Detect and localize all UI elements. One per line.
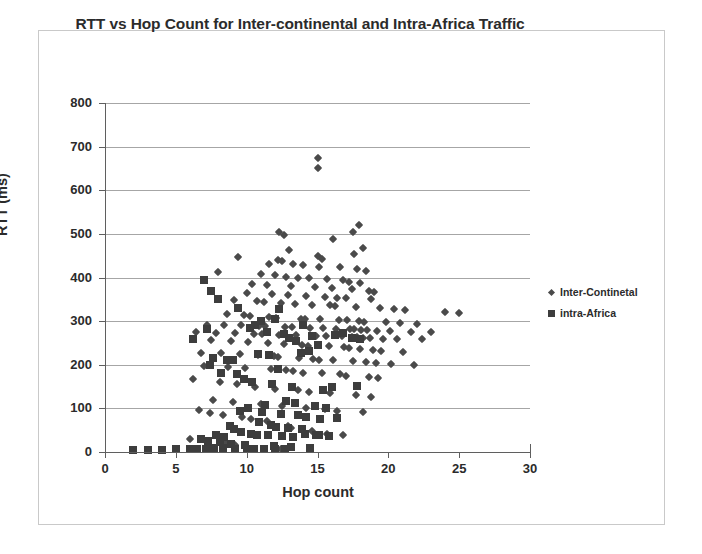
plot-right-edge	[530, 444, 531, 453]
data-point-inter-continental	[343, 316, 351, 324]
data-point-intra-africa	[255, 418, 263, 426]
y-tick-label: 100	[46, 400, 92, 415]
data-point-inter-continental	[194, 406, 202, 414]
data-point-intra-africa	[322, 404, 330, 412]
data-point-inter-continental	[247, 415, 255, 423]
data-point-inter-continental	[216, 378, 224, 386]
data-point-inter-continental	[286, 282, 294, 290]
data-point-intra-africa	[244, 404, 252, 412]
data-point-intra-africa	[333, 414, 341, 422]
y-tick-mark	[99, 147, 105, 148]
data-point-intra-africa	[315, 431, 323, 439]
data-point-inter-continental	[354, 221, 362, 229]
data-point-intra-africa	[331, 331, 339, 339]
x-axis-label: Hop count	[105, 484, 531, 500]
data-point-inter-continental	[302, 292, 310, 300]
gridline-y	[105, 103, 530, 104]
data-point-inter-continental	[381, 318, 389, 326]
data-point-inter-continental	[268, 290, 276, 298]
data-point-intra-africa	[236, 407, 244, 415]
data-point-inter-continental	[410, 361, 418, 369]
data-point-intra-africa	[206, 361, 214, 369]
data-point-intra-africa	[207, 287, 215, 295]
data-point-intra-africa	[212, 431, 220, 439]
data-point-inter-continental	[293, 273, 301, 281]
y-tick-label: 700	[46, 139, 92, 154]
y-axis-line	[105, 103, 106, 453]
x-tick-label: 20	[368, 461, 408, 476]
data-point-intra-africa	[277, 410, 285, 418]
diamond-marker-icon	[545, 290, 557, 295]
data-point-intra-africa	[217, 369, 225, 377]
data-point-intra-africa	[254, 350, 262, 358]
legend-label: intra-Africa	[560, 307, 616, 319]
data-point-inter-continental	[242, 289, 250, 297]
legend-item-intra-africa[interactable]: intra-Africa	[545, 304, 665, 322]
data-point-inter-continental	[223, 310, 231, 318]
data-point-inter-continental	[322, 332, 330, 340]
data-point-intra-africa	[275, 305, 283, 313]
data-point-inter-continental	[373, 326, 381, 334]
data-point-intra-africa	[282, 397, 290, 405]
square-marker-icon	[545, 310, 557, 317]
data-point-inter-continental	[248, 280, 256, 288]
y-tick-label: 200	[46, 357, 92, 372]
data-point-intra-africa	[289, 433, 297, 441]
data-point-inter-continental	[197, 348, 205, 356]
data-point-intra-africa	[353, 382, 361, 390]
data-point-inter-continental	[386, 327, 394, 335]
data-point-inter-continental	[231, 329, 239, 337]
data-point-inter-continental	[333, 293, 341, 301]
data-point-inter-continental	[315, 262, 323, 270]
data-point-inter-continental	[305, 274, 313, 282]
data-point-intra-africa	[253, 431, 261, 439]
data-point-intra-africa	[265, 351, 273, 359]
x-tick-mark	[388, 452, 389, 458]
data-point-intra-africa	[237, 428, 245, 436]
data-point-inter-continental	[316, 315, 324, 323]
data-point-inter-continental	[360, 317, 368, 325]
x-tick-label: 25	[439, 461, 479, 476]
x-tick-label: 0	[85, 461, 125, 476]
x-tick-label: 5	[156, 461, 196, 476]
data-point-intra-africa	[240, 375, 248, 383]
data-point-intra-africa	[258, 408, 266, 416]
data-point-inter-continental	[327, 284, 335, 292]
data-point-inter-continental	[320, 292, 328, 300]
data-point-intra-africa	[325, 432, 333, 440]
data-point-intra-africa	[301, 430, 309, 438]
x-tick-label: 10	[227, 461, 267, 476]
data-point-inter-continental	[227, 337, 235, 345]
data-point-inter-continental	[313, 153, 321, 161]
legend-item-inter-continental[interactable]: Inter-Continetal	[545, 283, 665, 301]
data-point-intra-africa	[308, 332, 316, 340]
data-point-intra-africa	[248, 378, 256, 386]
data-point-intra-africa	[200, 276, 208, 284]
data-point-inter-continental	[441, 308, 449, 316]
data-point-inter-continental	[211, 329, 219, 337]
data-point-inter-continental	[366, 334, 374, 342]
data-point-intra-africa	[234, 304, 242, 312]
gridline-y	[105, 365, 530, 366]
data-point-intra-africa	[288, 383, 296, 391]
gridline-y	[105, 190, 530, 191]
gridline-y	[105, 278, 530, 279]
data-point-intra-africa	[316, 415, 324, 423]
data-point-inter-continental	[291, 299, 299, 307]
data-point-inter-continental	[207, 336, 215, 344]
data-point-inter-continental	[313, 164, 321, 172]
data-point-intra-africa	[319, 386, 327, 394]
data-point-inter-continental	[234, 253, 242, 261]
y-tick-mark	[99, 408, 105, 409]
x-tick-mark	[459, 452, 460, 458]
data-point-intra-africa	[297, 349, 305, 357]
chart-legend: Inter-Continetal intra-Africa	[545, 283, 665, 325]
data-point-inter-continental	[387, 360, 395, 368]
data-point-inter-continental	[344, 344, 352, 352]
plot-area	[105, 103, 530, 452]
data-point-intra-africa	[219, 444, 227, 452]
data-point-inter-continental	[377, 347, 385, 355]
data-point-inter-continental	[237, 321, 245, 329]
y-tick-mark	[99, 234, 105, 235]
data-point-intra-africa	[292, 337, 300, 345]
